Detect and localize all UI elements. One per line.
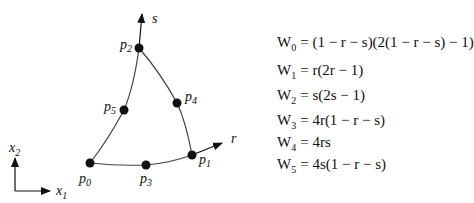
eq-rhs: = 4s(1 − r − s) (300, 156, 386, 172)
eq-rhs: = s(2s − 1) (300, 87, 365, 103)
eq-sub: 0 (291, 42, 296, 53)
equation-w2: W2= s(2s − 1) (277, 87, 365, 104)
edge-p0-p3-p1 (90, 155, 192, 165)
quadratic-triangle-element-diagram: s r x2 x1 p0 p1 p2 p3 p4 p5 (0, 0, 260, 203)
eq-rhs: = (1 − r − s)(2(1 − r − s) − 1) (300, 34, 474, 50)
equation-w4: W4= 4rs (277, 134, 331, 151)
equation-w3: W3= 4r(1 − r − s) (277, 112, 385, 129)
node-p4 (173, 99, 182, 108)
eq-name: W (277, 134, 291, 150)
label-p2: p2 (119, 37, 132, 54)
eq-name: W (277, 62, 291, 78)
eq-rhs: = r(2r − 1) (300, 62, 363, 78)
node-p1 (188, 151, 197, 160)
eq-sub: 2 (291, 95, 296, 106)
eq-rhs: = 4r(1 − r − s) (300, 112, 385, 128)
node-p5 (120, 106, 129, 115)
equation-w1: W1= r(2r − 1) (277, 62, 363, 79)
r-axis-arrow (192, 143, 222, 155)
label-p0: p0 (78, 171, 91, 188)
eq-name: W (277, 34, 291, 50)
node-p3 (142, 161, 151, 170)
label-p4: p4 (184, 89, 197, 106)
eq-sub: 1 (291, 70, 296, 81)
label-p1: p1 (198, 152, 211, 169)
x2-axis-label: x2 (8, 140, 20, 158)
node-p2 (135, 44, 144, 53)
r-axis-label: r (231, 131, 237, 146)
eq-sub: 5 (291, 164, 296, 175)
eq-sub: 4 (291, 142, 296, 153)
node-p0 (86, 159, 95, 168)
eq-rhs: = 4rs (300, 134, 331, 150)
s-axis-arrow (139, 14, 142, 48)
eq-name: W (277, 156, 291, 172)
eq-sub: 3 (291, 120, 296, 131)
label-p3: p3 (139, 171, 152, 188)
label-p5: p5 (103, 99, 116, 116)
s-axis-label: s (152, 11, 158, 26)
equation-w0: W0= (1 − r − s)(2(1 − r − s) − 1) (277, 34, 474, 51)
x1-axis-label: x1 (55, 183, 67, 201)
eq-name: W (277, 112, 291, 128)
eq-name: W (277, 87, 291, 103)
equation-w5: W5= 4s(1 − r − s) (277, 156, 386, 173)
